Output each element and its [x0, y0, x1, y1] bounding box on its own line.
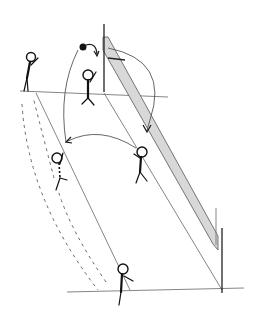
player-5-head [118, 264, 128, 274]
volleyball-drill-diagram [0, 0, 256, 326]
diagram-canvas [0, 0, 256, 326]
court-line-middle-diagonal [104, 93, 222, 290]
court-line-left-diagonal [36, 93, 130, 290]
arc-p3-to-p4 [68, 134, 136, 148]
net [103, 24, 222, 293]
player-4 [52, 153, 67, 190]
player-3-head [137, 147, 147, 157]
player-2 [82, 70, 96, 105]
arc-ball-left [64, 50, 78, 142]
ball-group [80, 44, 100, 57]
player-3 [134, 147, 147, 183]
ball [80, 44, 87, 51]
net-band [103, 37, 218, 250]
player-1 [24, 53, 38, 92]
court-line-bottom [67, 288, 244, 292]
player-5 [118, 264, 133, 305]
player-1-head [27, 53, 36, 62]
court-line-top [20, 91, 168, 97]
dashed-path-p1-to-p5 [22, 104, 98, 290]
court-lines [20, 91, 244, 292]
